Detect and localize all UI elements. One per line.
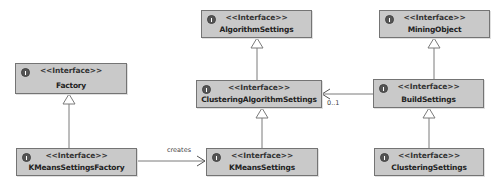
interface-name: KMeansSettings — [207, 163, 317, 172]
uml-diagram: <<Interface>> Factory <<Interface>> KMea… — [0, 0, 504, 186]
interface-name: Factory — [16, 81, 126, 90]
interface-name: MiningObject — [380, 25, 489, 34]
interface-name: AlgorithmSettings — [202, 25, 311, 34]
edge-label-creates: creates — [167, 146, 191, 154]
generalization-arrowhead — [423, 108, 435, 118]
stereotype-label: <<Interface>> — [375, 151, 483, 160]
interface-box-clustering-algorithm-settings[interactable]: <<Interface>> ClusteringAlgorithmSetting… — [196, 80, 322, 108]
interface-box-factory[interactable]: <<Interface>> Factory — [15, 63, 127, 94]
stereotype-label: <<Interface>> — [207, 151, 317, 160]
edge-label-multiplicity: 0..1 — [327, 99, 339, 107]
generalization-arrowhead — [251, 38, 263, 48]
generalization-arrowhead — [428, 38, 440, 48]
stereotype-label: <<Interface>> — [374, 82, 483, 91]
interface-box-build-settings[interactable]: <<Interface>> BuildSettings — [373, 79, 484, 108]
stereotype-label: <<Interface>> — [202, 13, 311, 22]
interface-name: KMeansSettingsFactory — [17, 163, 136, 172]
interface-name: ClusteringSettings — [375, 163, 483, 172]
generalization-arrowhead — [63, 94, 75, 104]
interface-box-mining-object[interactable]: <<Interface>> MiningObject — [379, 10, 490, 38]
stereotype-label: <<Interface>> — [17, 151, 136, 160]
generalization-arrowhead — [256, 108, 268, 118]
interface-box-algorithm-settings[interactable]: <<Interface>> AlgorithmSettings — [201, 10, 312, 38]
stereotype-label: <<Interface>> — [197, 83, 321, 92]
stereotype-label: <<Interface>> — [16, 66, 126, 75]
interface-box-clustering-settings[interactable]: <<Interface>> ClusteringSettings — [374, 148, 484, 176]
interface-name: ClusteringAlgorithmSettings — [197, 95, 321, 104]
stereotype-label: <<Interface>> — [380, 13, 489, 22]
interface-box-kmeans-settings-factory[interactable]: <<Interface>> KMeansSettingsFactory — [16, 148, 137, 176]
interface-name: BuildSettings — [374, 95, 483, 104]
interface-box-kmeans-settings[interactable]: <<Interface>> KMeansSettings — [206, 148, 318, 176]
